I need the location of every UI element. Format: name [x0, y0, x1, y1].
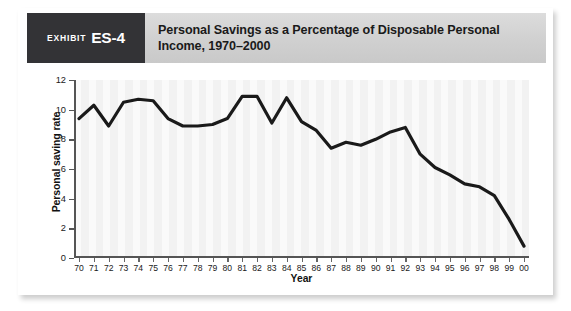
- x-tick-label: 71: [89, 263, 99, 273]
- x-tick: [450, 258, 451, 262]
- y-tick-label: 12: [56, 75, 66, 85]
- x-tick-label: 70: [74, 263, 84, 273]
- exhibit-number-label: ES-4: [91, 29, 125, 47]
- y-tick: [69, 258, 74, 259]
- x-tick-label: 99: [504, 263, 514, 273]
- x-tick-label: 00: [519, 263, 529, 273]
- x-tick-label: 88: [341, 263, 351, 273]
- personal-saving-rate-series: [79, 96, 524, 246]
- x-tick-label: 86: [312, 263, 322, 273]
- x-tick: [465, 258, 466, 262]
- y-tick-label: 6: [61, 164, 66, 174]
- x-tick: [227, 258, 228, 262]
- x-tick-label: 90: [371, 263, 381, 273]
- x-axis-label: Year: [74, 273, 529, 284]
- x-tick-label: 80: [223, 263, 233, 273]
- x-tick: [257, 258, 258, 262]
- x-tick-label: 79: [208, 263, 218, 273]
- x-tick: [524, 258, 525, 262]
- x-tick-label: 98: [490, 263, 500, 273]
- x-tick-label: 96: [460, 263, 470, 273]
- x-tick-label: 84: [282, 263, 292, 273]
- chart-area: Personal saving rate 024681012 707172737…: [27, 68, 546, 290]
- data-line-svg: [74, 80, 529, 258]
- y-tick-label: 8: [61, 134, 66, 144]
- x-tick: [109, 258, 110, 262]
- x-tick-label: 91: [386, 263, 396, 273]
- x-tick-label: 93: [415, 263, 425, 273]
- x-tick-label: 75: [148, 263, 158, 273]
- x-tick: [435, 258, 436, 262]
- plot-region: 024681012 707172737475767778798081828384…: [74, 80, 529, 258]
- x-tick: [361, 258, 362, 262]
- x-tick: [302, 258, 303, 262]
- y-tick-label: 10: [56, 105, 66, 115]
- x-tick: [376, 258, 377, 262]
- x-tick: [242, 258, 243, 262]
- x-tick: [346, 258, 347, 262]
- x-tick: [287, 258, 288, 262]
- x-tick: [420, 258, 421, 262]
- x-tick: [480, 258, 481, 262]
- x-tick-label: 77: [178, 263, 188, 273]
- exhibit-word-label: Exhibit: [47, 33, 86, 43]
- x-tick-label: 92: [401, 263, 411, 273]
- x-tick-label: 87: [326, 263, 336, 273]
- x-tick-label: 81: [237, 263, 247, 273]
- y-tick-label: 4: [61, 194, 66, 204]
- x-tick: [494, 258, 495, 262]
- x-tick-label: 83: [267, 263, 277, 273]
- x-tick-label: 76: [163, 263, 173, 273]
- exhibit-label-box: Exhibit ES-4: [27, 13, 145, 63]
- x-tick: [405, 258, 406, 262]
- x-tick: [79, 258, 80, 262]
- y-tick-label: 0: [61, 253, 66, 263]
- x-tick: [198, 258, 199, 262]
- x-tick-label: 85: [297, 263, 307, 273]
- x-tick-label: 73: [119, 263, 129, 273]
- x-tick-label: 97: [475, 263, 485, 273]
- x-tick-label: 94: [430, 263, 440, 273]
- x-tick: [183, 258, 184, 262]
- x-tick: [391, 258, 392, 262]
- page-title: Personal Savings as a Percentage of Disp…: [158, 22, 534, 54]
- x-tick-label: 78: [193, 263, 203, 273]
- exhibit-header: Exhibit ES-4 Personal Savings as a Perce…: [27, 13, 546, 63]
- x-tick-label: 72: [104, 263, 114, 273]
- x-tick: [272, 258, 273, 262]
- x-tick: [316, 258, 317, 262]
- x-tick: [138, 258, 139, 262]
- x-tick: [124, 258, 125, 262]
- x-tick: [168, 258, 169, 262]
- x-tick: [153, 258, 154, 262]
- x-tick: [509, 258, 510, 262]
- exhibit-card: Exhibit ES-4 Personal Savings as a Perce…: [18, 8, 553, 295]
- x-tick-label: 74: [134, 263, 144, 273]
- y-tick-label: 2: [61, 223, 66, 233]
- x-tick: [94, 258, 95, 262]
- x-tick-label: 95: [445, 263, 455, 273]
- x-tick: [331, 258, 332, 262]
- x-tick-label: 89: [356, 263, 366, 273]
- title-area: Personal Savings as a Percentage of Disp…: [145, 13, 546, 63]
- x-tick-label: 82: [252, 263, 262, 273]
- x-tick: [213, 258, 214, 262]
